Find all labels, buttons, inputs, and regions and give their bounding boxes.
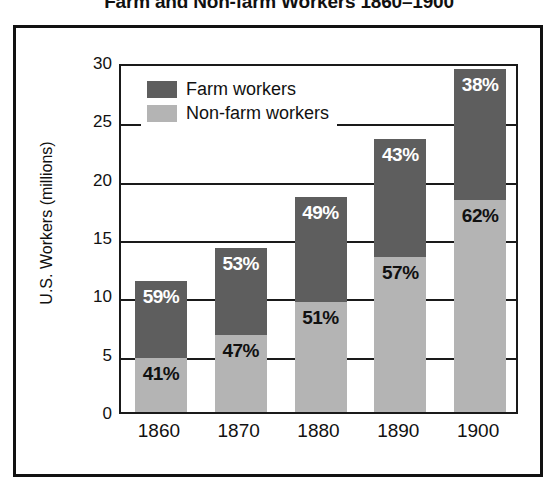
x-axis-tick-label-1860: 1860	[119, 420, 199, 442]
bar-group-1900[interactable]: 38%62%	[454, 69, 506, 412]
bar-label-nonfarm-1870: 47%	[215, 340, 267, 362]
bar-label-farm-1860: 59%	[135, 286, 187, 308]
x-axis-tick-label-1870: 1870	[199, 420, 279, 442]
bar-segment-farm-1890[interactable]: 43%	[374, 139, 426, 257]
y-axis-tick-label: 0	[68, 404, 112, 424]
y-axis-tick-labels: 051015202530	[60, 64, 112, 414]
bar-label-nonfarm-1900: 62%	[454, 205, 506, 227]
page-title: Farm and Non-farm Workers 1860–1900	[0, 0, 558, 13]
legend-label-nonfarm: Non-farm workers	[186, 103, 329, 124]
bar-label-farm-1870: 53%	[215, 253, 267, 275]
bar-segment-nonfarm-1870[interactable]: 47%	[215, 335, 267, 412]
bar-label-farm-1880: 49%	[295, 202, 347, 224]
bar-segment-farm-1860[interactable]: 59%	[135, 281, 187, 358]
legend-item-nonfarm[interactable]: Non-farm workers	[147, 101, 329, 125]
y-axis-tick-label: 15	[68, 229, 112, 249]
bar-label-nonfarm-1880: 51%	[295, 307, 347, 329]
y-axis-tick-label: 10	[68, 287, 112, 307]
bar-segment-farm-1870[interactable]: 53%	[215, 248, 267, 336]
bar-segment-nonfarm-1900[interactable]: 62%	[454, 200, 506, 412]
legend-swatch-farm-icon	[147, 81, 177, 98]
bar-group-1860[interactable]: 59%41%	[135, 281, 187, 412]
bar-group-1890[interactable]: 43%57%	[374, 139, 426, 412]
bar-segment-farm-1900[interactable]: 38%	[454, 69, 506, 200]
legend-label-farm: Farm workers	[186, 79, 296, 100]
x-axis-tick-label-1900: 1900	[438, 420, 518, 442]
y-axis-tick-label: 20	[68, 171, 112, 191]
bar-segment-nonfarm-1860[interactable]: 41%	[135, 358, 187, 412]
bar-segment-nonfarm-1890[interactable]: 57%	[374, 257, 426, 412]
bar-label-farm-1890: 43%	[374, 144, 426, 166]
bar-label-nonfarm-1890: 57%	[374, 262, 426, 284]
bar-segment-nonfarm-1880[interactable]: 51%	[295, 302, 347, 412]
chart-figure-frame: U.S. Workers (millions) 051015202530 59%…	[13, 25, 543, 477]
y-axis-title: U.S. Workers (millions)	[38, 118, 56, 328]
x-axis-tick-label-1890: 1890	[358, 420, 438, 442]
legend-item-farm[interactable]: Farm workers	[147, 77, 329, 101]
x-axis-tick-label-1880: 1880	[279, 420, 359, 442]
x-axis-tick-labels: 18601870188018901900	[119, 420, 518, 450]
bar-segment-farm-1880[interactable]: 49%	[295, 197, 347, 302]
y-axis-tick-label: 5	[68, 346, 112, 366]
bar-group-1880[interactable]: 49%51%	[295, 197, 347, 412]
bar-label-farm-1900: 38%	[454, 74, 506, 96]
legend-swatch-nonfarm-icon	[147, 105, 177, 122]
bar-label-nonfarm-1860: 41%	[135, 363, 187, 385]
y-axis-tick-label: 30	[68, 54, 112, 74]
chart-legend: Farm workersNon-farm workers	[141, 73, 337, 129]
bar-group-1870[interactable]: 53%47%	[215, 248, 267, 413]
y-axis-tick-label: 25	[68, 112, 112, 132]
